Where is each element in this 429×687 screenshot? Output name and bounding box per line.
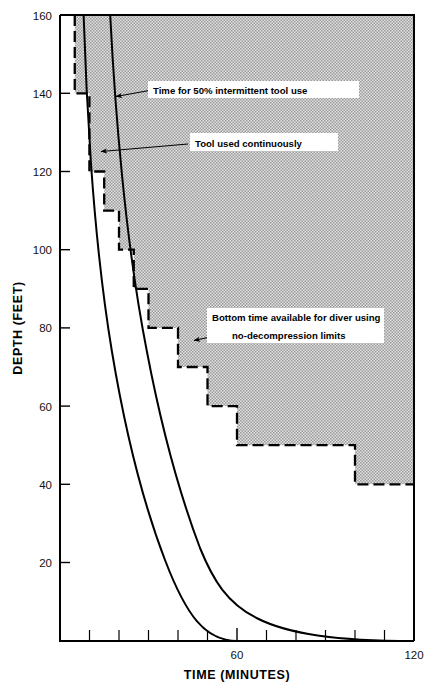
annotation-label-intermittent: Time for 50% intermittent tool use	[153, 85, 307, 96]
y-tick-label-100: 100	[33, 244, 52, 256]
chart-container: 160 140 120 100 80 60 40 20 60 120	[0, 0, 429, 687]
depth-vs-time-chart: 160 140 120 100 80 60 40 20 60 120	[0, 0, 429, 687]
annotation-label-no-decompression-line2: no-decompression limits	[232, 330, 346, 341]
y-tick-label-140: 140	[33, 88, 52, 100]
annotation-label-no-decompression-line1: Bottom time available for diver using	[212, 312, 381, 323]
y-tick-label-40: 40	[39, 479, 52, 491]
y-tick-label-80: 80	[39, 322, 52, 334]
y-axis-title: DEPTH (FEET)	[11, 281, 25, 374]
annotation-intermittent-tool-use: Time for 50% intermittent tool use	[116, 81, 359, 98]
annotation-no-decompression: Bottom time available for diver using no…	[194, 308, 384, 343]
x-tick-label-120: 120	[404, 649, 423, 661]
annotation-label-continuous: Tool used continuously	[195, 138, 303, 149]
y-tick-label-20: 20	[39, 557, 52, 569]
x-tick-label-60: 60	[231, 649, 244, 661]
y-tick-label-120: 120	[33, 166, 52, 178]
y-tick-label-60: 60	[39, 401, 52, 413]
y-tick-label-160: 160	[33, 10, 52, 22]
x-axis-title: TIME (MINUTES)	[184, 668, 290, 682]
